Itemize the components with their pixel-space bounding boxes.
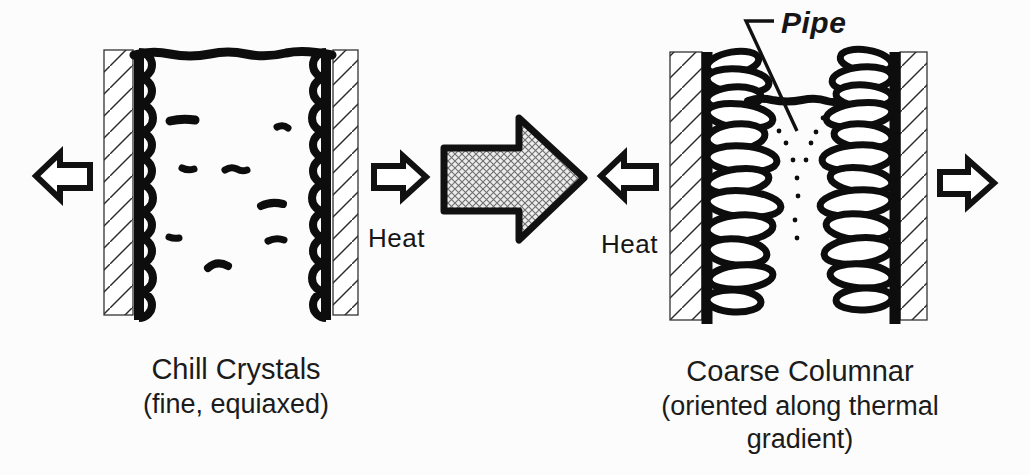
columnar-grain <box>835 287 892 312</box>
crystal-speck <box>277 126 288 128</box>
pipe-dot <box>795 176 800 181</box>
crystal-speck <box>170 119 195 121</box>
pipe-dot <box>795 236 800 241</box>
pipe-dot <box>784 141 789 146</box>
heat-arrow-left-icon <box>36 153 90 199</box>
left-mold-left-wall <box>104 50 133 315</box>
columnar-grains-right <box>819 46 893 311</box>
heat-label-left-panel: Heat <box>368 223 425 254</box>
heat-label-right-panel: Heat <box>601 229 658 260</box>
crystal-speck <box>225 168 247 171</box>
right-caption-subtitle: (oriented along thermal gradient) <box>650 390 950 456</box>
pipe-label: Pipe <box>781 6 846 40</box>
right-caption-title: Coarse Columnar <box>650 352 950 390</box>
crystal-speck <box>182 168 194 170</box>
pipe-dot <box>793 218 798 223</box>
right-mold-right-wall <box>900 52 927 320</box>
left-panel-caption: Chill Crystals (fine, equiaxed) <box>86 350 386 421</box>
equiaxed-crystals <box>169 119 288 268</box>
heat-arrow-right-icon <box>940 160 994 206</box>
columnar-grain <box>706 289 761 314</box>
right-mold-diagram <box>670 21 927 324</box>
progression-arrow-icon <box>444 118 584 240</box>
heat-arrow-left-icon <box>601 154 656 198</box>
crystal-speck <box>268 239 284 241</box>
crystal-speck <box>261 203 283 206</box>
left-mold-top-surface <box>134 51 332 56</box>
left-caption-subtitle: (fine, equiaxed) <box>86 388 386 421</box>
pipe-dot <box>796 194 801 199</box>
heat-arrow-right-icon <box>374 156 426 198</box>
crystal-speck <box>208 263 228 268</box>
pipe-surface-line <box>748 99 839 102</box>
left-mold-diagram <box>104 50 358 320</box>
right-panel-caption: Coarse Columnar (oriented along thermal … <box>650 352 950 456</box>
right-mold-left-wall <box>670 52 702 320</box>
pipe-dot <box>809 141 814 146</box>
pipe-dot <box>777 129 782 134</box>
pipe-dot <box>804 158 809 163</box>
left-mold-right-wall <box>333 50 358 315</box>
solidification-figure: Heat Heat Pipe Chill Crystals (fine, equ… <box>0 0 1030 475</box>
pipe-dot <box>821 116 826 121</box>
pipe-dot <box>814 130 819 135</box>
crystal-speck <box>169 237 179 238</box>
left-caption-title: Chill Crystals <box>86 350 386 388</box>
pipe-dot <box>769 115 774 120</box>
pipe-dot <box>791 158 796 163</box>
pipe-dots <box>769 115 826 241</box>
columnar-grains-left <box>705 48 782 314</box>
